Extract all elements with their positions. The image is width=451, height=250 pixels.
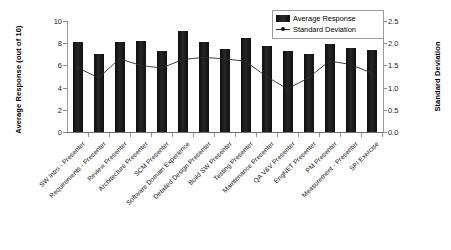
y-axis-left-title: Average Response (out of 10) bbox=[14, 15, 23, 145]
y-axis-left-tick-label: 6 bbox=[58, 61, 62, 70]
y-axis-right-tick-mark bbox=[383, 88, 387, 89]
line-data-point bbox=[161, 67, 163, 69]
x-axis-tick-mark bbox=[382, 133, 383, 137]
line-data-point bbox=[182, 59, 184, 61]
y-axis-left-tick-label: 10 bbox=[54, 17, 62, 26]
y-axis-right-tick-label: 0.0 bbox=[388, 128, 398, 137]
y-axis-left-tick-mark bbox=[63, 65, 67, 66]
x-axis-tick-mark bbox=[88, 133, 89, 137]
y-axis-right-tick-label: 0.5 bbox=[388, 105, 398, 114]
x-axis-tick-mark bbox=[361, 133, 362, 137]
x-axis-tick-mark bbox=[319, 133, 320, 137]
line-data-point bbox=[77, 67, 79, 69]
x-axis-tick-mark bbox=[172, 133, 173, 137]
y-axis-left-tick-label: 0 bbox=[58, 128, 62, 137]
line-data-point bbox=[350, 64, 352, 66]
y-axis-right-tick-mark bbox=[383, 110, 387, 111]
x-axis-tick-mark bbox=[130, 133, 131, 137]
legend: Average Response Standard Deviation bbox=[272, 10, 384, 39]
x-axis-tick-mark bbox=[193, 133, 194, 137]
y-axis-right-title: Standard Deviation bbox=[433, 12, 442, 142]
y-axis-left: 0246810 bbox=[40, 21, 62, 132]
y-axis-left-tick-mark bbox=[63, 43, 67, 44]
x-axis-tick-mark bbox=[109, 133, 110, 137]
line-data-point bbox=[245, 61, 247, 63]
line-data-point bbox=[329, 60, 331, 62]
x-axis-line bbox=[67, 132, 383, 133]
y-axis-right-tick-label: 2.0 bbox=[388, 39, 398, 48]
legend-item-standard-deviation: Standard Deviation bbox=[276, 24, 380, 35]
y-axis-right-tick-mark bbox=[383, 21, 387, 22]
chart-container: Average Response (out of 10) Standard De… bbox=[0, 0, 451, 250]
y-axis-left-tick-mark bbox=[63, 110, 67, 111]
x-axis-tick-mark bbox=[256, 133, 257, 137]
line-data-point bbox=[266, 76, 268, 78]
bar-swatch-icon bbox=[276, 15, 290, 22]
line-marker-icon bbox=[276, 26, 290, 33]
line-data-point bbox=[140, 65, 142, 67]
y-axis-right-tick-mark bbox=[383, 65, 387, 66]
y-axis-left-tick-mark bbox=[63, 21, 67, 22]
y-axis-left-tick-mark bbox=[63, 88, 67, 89]
legend-item-label: Average Response bbox=[293, 14, 356, 23]
x-axis-tick-mark bbox=[151, 133, 152, 137]
y-axis-right-tick-mark bbox=[383, 132, 387, 133]
y-axis-left-tick-mark bbox=[63, 132, 67, 133]
legend-item-label: Standard Deviation bbox=[293, 25, 356, 34]
y-axis-right: 0.00.51.01.52.02.5 bbox=[388, 21, 414, 132]
y-axis-left-tick-label: 2 bbox=[58, 105, 62, 114]
line-data-point bbox=[308, 77, 310, 79]
legend-item-average-response: Average Response bbox=[276, 13, 380, 24]
x-axis-tick-mark bbox=[277, 133, 278, 137]
line-data-point bbox=[98, 77, 100, 79]
x-axis-tick-mark bbox=[214, 133, 215, 137]
y-axis-right-tick-label: 1.0 bbox=[388, 83, 398, 92]
x-axis-tick-mark bbox=[298, 133, 299, 137]
x-axis-tick-mark bbox=[340, 133, 341, 137]
line-data-point bbox=[203, 57, 205, 59]
y-axis-right-tick-label: 1.5 bbox=[388, 61, 398, 70]
line-data-point bbox=[287, 88, 289, 90]
line-data-point bbox=[371, 72, 373, 74]
y-axis-right-tick-label: 2.5 bbox=[388, 17, 398, 26]
line-data-point bbox=[224, 58, 226, 60]
y-axis-left-tick-label: 4 bbox=[58, 83, 62, 92]
x-axis-tick-mark bbox=[235, 133, 236, 137]
line-series-path bbox=[78, 57, 372, 89]
y-axis-left-tick-label: 8 bbox=[58, 39, 62, 48]
y-axis-right-tick-mark bbox=[383, 43, 387, 44]
line-data-point bbox=[119, 58, 121, 60]
